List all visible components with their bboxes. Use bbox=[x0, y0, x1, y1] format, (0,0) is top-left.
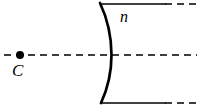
refractive-index-label: n bbox=[120, 9, 128, 25]
optics-figure: C n bbox=[0, 0, 198, 109]
center-of-curvature-label: C bbox=[12, 62, 23, 79]
refracting-surface-arc bbox=[100, 3, 112, 103]
figure-canvas bbox=[0, 0, 198, 109]
center-of-curvature-dot bbox=[16, 51, 24, 59]
